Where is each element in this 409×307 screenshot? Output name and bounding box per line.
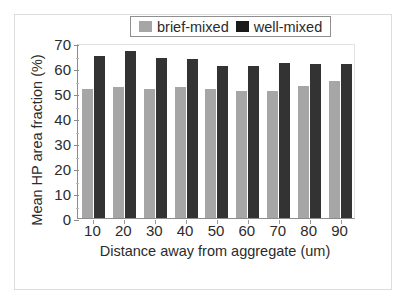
bar-well-mixed-50[interactable] <box>217 66 228 219</box>
bar-group <box>171 45 202 218</box>
bar-brief-mixed-60[interactable] <box>236 91 247 219</box>
bar-well-mixed-80[interactable] <box>310 64 321 218</box>
bar-group <box>325 45 356 218</box>
bar-chart: Mean HP area fraction (%) brief-mixed we… <box>0 0 409 307</box>
legend-label-brief-mixed: brief-mixed <box>157 19 229 35</box>
y-axis-tick <box>74 220 79 221</box>
y-axis-tick-label: 0 <box>25 212 71 227</box>
bar-brief-mixed-30[interactable] <box>144 89 155 218</box>
y-axis-tick-label: 10 <box>25 187 71 202</box>
x-axis-title: Distance away from aggregate (um) <box>60 243 370 259</box>
bar-brief-mixed-90[interactable] <box>329 81 340 219</box>
bar-well-mixed-60[interactable] <box>248 66 259 219</box>
bar-brief-mixed-80[interactable] <box>298 86 309 219</box>
bar-well-mixed-20[interactable] <box>125 51 136 219</box>
y-axis-tick-label: 50 <box>25 87 71 102</box>
bar-brief-mixed-40[interactable] <box>175 87 186 218</box>
bar-group <box>294 45 325 218</box>
black-swatch-icon <box>236 21 249 32</box>
plot-area <box>77 44 355 219</box>
bar-group <box>140 45 171 218</box>
y-axis-tick-label: 40 <box>25 112 71 127</box>
bar-brief-mixed-70[interactable] <box>267 91 278 219</box>
bar-brief-mixed-50[interactable] <box>205 89 216 218</box>
bar-brief-mixed-10[interactable] <box>82 89 93 218</box>
bar-group <box>202 45 233 218</box>
chart-legend: brief-mixed well-mixed <box>130 16 331 37</box>
bar-group <box>109 45 140 218</box>
y-axis-tick-label: 30 <box>25 137 71 152</box>
y-axis-tick-label: 60 <box>25 62 71 77</box>
legend-label-well-mixed: well-mixed <box>254 19 323 35</box>
bar-brief-mixed-20[interactable] <box>113 87 124 218</box>
y-axis-tick-label: 20 <box>25 162 71 177</box>
legend-item-well-mixed[interactable]: well-mixed <box>236 19 323 35</box>
bar-group <box>232 45 263 218</box>
bar-well-mixed-10[interactable] <box>94 56 105 219</box>
bar-well-mixed-70[interactable] <box>279 63 290 218</box>
bar-well-mixed-40[interactable] <box>187 59 198 218</box>
legend-item-brief-mixed[interactable]: brief-mixed <box>139 19 229 35</box>
bar-group <box>78 45 109 218</box>
gray-swatch-icon <box>139 21 152 32</box>
bar-well-mixed-30[interactable] <box>156 58 167 218</box>
bar-group <box>263 45 294 218</box>
y-axis-tick-label: 70 <box>25 37 71 52</box>
bar-well-mixed-90[interactable] <box>341 64 352 218</box>
x-axis-tick-label: 90 <box>320 222 360 239</box>
